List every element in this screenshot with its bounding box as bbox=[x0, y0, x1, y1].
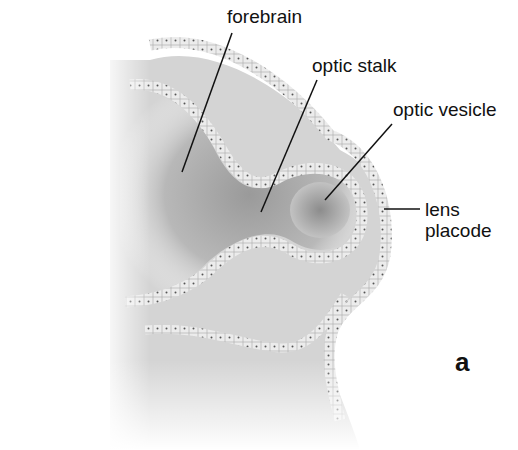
optic-vesicle-lumen bbox=[290, 182, 350, 238]
label-optic-stalk: optic stalk bbox=[312, 55, 396, 76]
label-forebrain: forebrain bbox=[227, 6, 302, 27]
panel-letter: a bbox=[455, 347, 469, 378]
label-lens: lens bbox=[425, 199, 460, 220]
label-optic-vesicle: optic vesicle bbox=[393, 99, 497, 120]
label-placode: placode bbox=[425, 220, 492, 241]
